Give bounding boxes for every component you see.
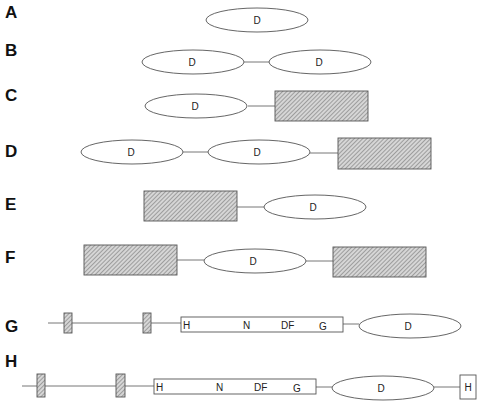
kinase-domain-box: [154, 379, 316, 394]
domain-label: D: [127, 147, 134, 158]
kinase-motif-h: H: [156, 382, 163, 393]
kinase-motif-df: DF: [281, 320, 294, 331]
kinase-motif-g: G: [319, 321, 327, 332]
domain-label: D: [191, 101, 198, 112]
row-d: D D D: [5, 138, 431, 169]
domain-label: D: [249, 256, 256, 267]
domain-label: D: [377, 383, 384, 394]
hatched-domain-box: [333, 247, 426, 277]
domain-label: D: [404, 321, 411, 332]
tm-segment: [143, 313, 151, 333]
row-label-e: E: [5, 195, 16, 214]
hatched-domain-box: [338, 138, 431, 169]
row-label-a: A: [5, 3, 17, 22]
h-end-box-label: H: [464, 382, 471, 393]
row-c: C D: [5, 86, 368, 121]
hatched-domain-box: [275, 91, 368, 121]
row-label-f: F: [5, 248, 15, 267]
tm-segment: [116, 374, 125, 397]
domain-architecture-figure: A D B D D C D D D D E D F: [0, 0, 480, 403]
row-e: E D: [5, 191, 366, 221]
row-f: F D: [5, 245, 426, 277]
hatched-domain-box: [84, 245, 177, 275]
kinase-motif-h: H: [183, 320, 190, 331]
kinase-motif-n: N: [216, 382, 223, 393]
row-a: A D: [5, 3, 308, 32]
domain-label: D: [253, 147, 260, 158]
row-h: H H N DF G D H: [5, 352, 476, 400]
row-label-d: D: [5, 142, 17, 161]
tm-segment: [37, 374, 45, 397]
row-label-b: B: [5, 41, 17, 60]
domain-label: D: [315, 57, 322, 68]
row-g: G H N DF G D: [5, 313, 461, 338]
hatched-domain-box: [144, 191, 237, 221]
domain-label: D: [253, 15, 260, 26]
tm-segment: [64, 313, 72, 333]
kinase-motif-n: N: [243, 320, 250, 331]
domain-label: D: [188, 57, 195, 68]
row-label-h: H: [5, 352, 17, 371]
domain-label: D: [309, 202, 316, 213]
row-label-g: G: [5, 317, 18, 336]
row-b: B D D: [5, 41, 371, 74]
kinase-motif-g: G: [293, 383, 301, 394]
row-label-c: C: [5, 86, 17, 105]
kinase-motif-df: DF: [254, 382, 267, 393]
